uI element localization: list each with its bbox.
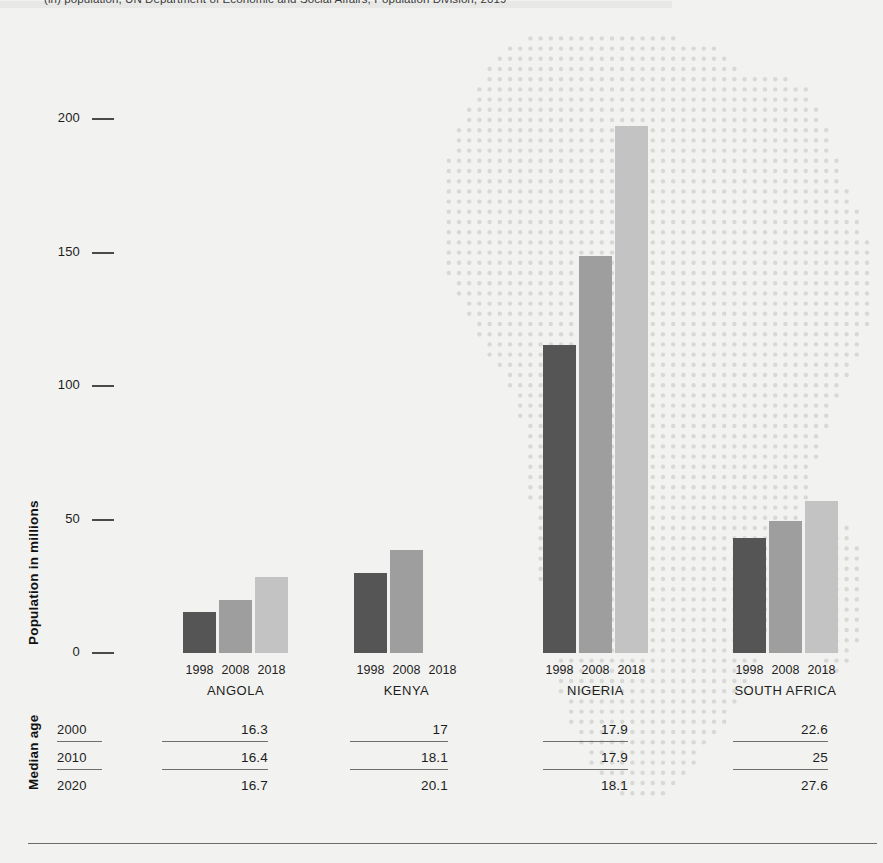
median-age-row-divider — [162, 769, 268, 770]
median-age-value: 25 — [708, 750, 828, 765]
median-age-row-divider — [162, 741, 268, 742]
median-age-value: 17.9 — [508, 722, 628, 737]
median-age-row-divider — [733, 769, 828, 770]
median-age-row-divider — [350, 741, 448, 742]
median-age-value: 16.4 — [148, 750, 268, 765]
median-age-value: 27.6 — [708, 778, 828, 793]
median-age-table: Median age200016.31717.922.6201016.418.1… — [0, 0, 883, 863]
median-age-value: 18.1 — [328, 750, 448, 765]
bottom-divider — [28, 843, 877, 844]
median-age-row-divider — [57, 769, 102, 770]
median-age-row-divider — [543, 769, 628, 770]
median-age-value: 17 — [328, 722, 448, 737]
median-age-row-divider — [57, 741, 102, 742]
median-age-row-divider — [350, 769, 448, 770]
median-age-row-divider — [543, 741, 628, 742]
median-age-title: Median age — [26, 714, 41, 790]
median-age-row-year: 2000 — [57, 722, 87, 737]
chart-page: (in) population, UN Department of Econom… — [0, 0, 883, 863]
median-age-row-year: 2020 — [57, 778, 87, 793]
source-note-strip: (in) population, UN Department of Econom… — [0, 0, 883, 8]
median-age-value: 17.9 — [508, 750, 628, 765]
median-age-value: 16.7 — [148, 778, 268, 793]
median-age-value: 20.1 — [328, 778, 448, 793]
median-age-row-year: 2010 — [57, 750, 87, 765]
median-age-value: 18.1 — [508, 778, 628, 793]
median-age-value: 16.3 — [148, 722, 268, 737]
median-age-row-divider — [733, 741, 828, 742]
source-note-text: (in) population, UN Department of Econom… — [44, 0, 506, 5]
median-age-value: 22.6 — [708, 722, 828, 737]
